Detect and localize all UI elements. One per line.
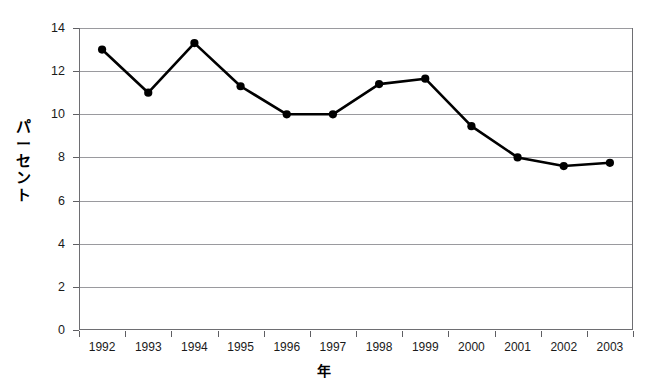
y-tick-mark bbox=[73, 28, 79, 29]
x-tick-mark bbox=[448, 331, 449, 337]
x-tick-label: 1999 bbox=[402, 341, 448, 353]
x-tick-mark bbox=[587, 331, 588, 337]
x-tick-label: 2000 bbox=[448, 341, 494, 353]
x-axis-title: 年 bbox=[0, 360, 648, 380]
y-tick-label: 8 bbox=[29, 151, 65, 164]
x-tick-label: 2003 bbox=[587, 341, 633, 353]
y-axis-title-char: ン bbox=[12, 169, 34, 186]
x-tick-mark bbox=[356, 331, 357, 337]
y-tick-label: 4 bbox=[29, 238, 65, 251]
x-tick-label: 1992 bbox=[79, 341, 125, 353]
x-tick-label: 2001 bbox=[495, 341, 541, 353]
y-axis-title-char: ー bbox=[12, 135, 34, 152]
x-tick-mark bbox=[264, 331, 265, 337]
x-tick-mark bbox=[125, 331, 126, 337]
x-tick-label: 2002 bbox=[541, 341, 587, 353]
y-axis-title-char: セ bbox=[12, 152, 34, 169]
y-tick-mark bbox=[73, 157, 79, 158]
x-tick-mark bbox=[310, 331, 311, 337]
y-axis-title: パ ー セ ン ト bbox=[12, 118, 34, 203]
x-tick-label: 1995 bbox=[218, 341, 264, 353]
line-chart-figure: 0246810121419921993199419951996199719981… bbox=[0, 0, 648, 392]
x-tick-mark bbox=[79, 331, 80, 337]
axis-layer: 0246810121419921993199419951996199719981… bbox=[0, 0, 648, 392]
y-tick-mark bbox=[73, 114, 79, 115]
y-tick-mark bbox=[73, 287, 79, 288]
y-axis-title-char: パ bbox=[12, 118, 34, 135]
y-axis-title-char: ト bbox=[12, 186, 34, 203]
x-tick-mark bbox=[495, 331, 496, 337]
x-tick-label: 1993 bbox=[125, 341, 171, 353]
x-tick-mark bbox=[541, 331, 542, 337]
y-tick-label: 0 bbox=[29, 324, 65, 337]
x-tick-mark bbox=[171, 331, 172, 337]
x-tick-label: 1998 bbox=[356, 341, 402, 353]
x-tick-label: 1997 bbox=[310, 341, 356, 353]
y-tick-label: 2 bbox=[29, 281, 65, 294]
x-tick-label: 1996 bbox=[264, 341, 310, 353]
y-tick-label: 12 bbox=[29, 65, 65, 78]
x-tick-mark bbox=[218, 331, 219, 337]
y-tick-label: 10 bbox=[29, 108, 65, 121]
x-tick-mark bbox=[402, 331, 403, 337]
y-tick-mark bbox=[73, 201, 79, 202]
y-tick-label: 6 bbox=[29, 195, 65, 208]
y-tick-label: 14 bbox=[29, 22, 65, 35]
x-tick-mark bbox=[633, 331, 634, 337]
x-tick-label: 1994 bbox=[171, 341, 217, 353]
y-tick-mark bbox=[73, 71, 79, 72]
y-tick-mark bbox=[73, 244, 79, 245]
